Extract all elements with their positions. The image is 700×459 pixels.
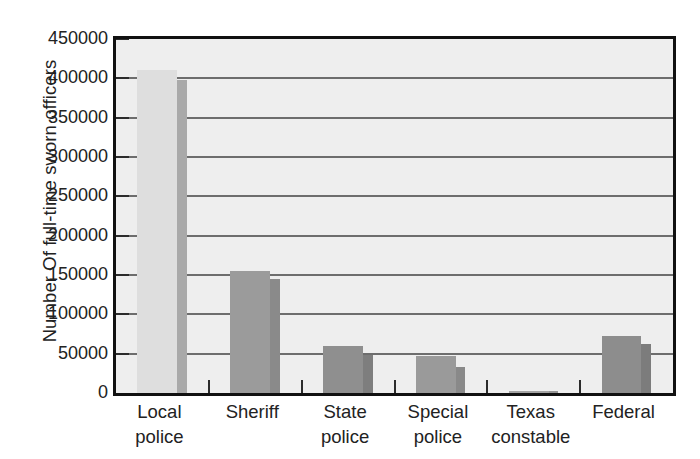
bar-front-face	[137, 70, 177, 393]
gridline	[116, 313, 673, 315]
y-axis-tick-label: 50000	[4, 344, 108, 362]
y-axis-tick-label: 100000	[4, 304, 108, 322]
bar-front-face	[416, 356, 456, 393]
gridline	[116, 117, 673, 119]
y-axis-tick-mark	[116, 313, 129, 315]
bar-side-face	[456, 367, 466, 393]
gridline	[116, 156, 673, 158]
bar[interactable]	[602, 336, 652, 393]
y-axis-tick-label: 150000	[4, 265, 108, 283]
gridline	[116, 195, 673, 197]
x-axis-tick-label: Texasconstable	[484, 400, 577, 449]
y-axis-tick-label: 250000	[4, 186, 108, 204]
bar[interactable]	[509, 391, 559, 393]
x-axis-tick-label-line: Sheriff	[206, 400, 299, 425]
x-axis-tick-label-line: Federal	[577, 400, 670, 425]
gridline	[116, 353, 673, 355]
x-axis-tick-label-line: constable	[484, 425, 577, 450]
y-axis-tick-mark	[116, 156, 129, 158]
y-axis-tick-label: 450000	[4, 29, 108, 47]
y-axis-tick-label: 350000	[4, 108, 108, 126]
bar-front-face	[230, 271, 270, 393]
x-axis-tick-mark	[394, 380, 396, 393]
y-axis-tick-mark	[116, 274, 129, 276]
x-axis-tick-label: Statepolice	[299, 400, 392, 449]
bar-side-face	[177, 80, 187, 393]
y-axis-tick-label: 300000	[4, 147, 108, 165]
bar-side-face	[363, 355, 373, 393]
y-axis-tick-mark	[116, 39, 129, 40]
gridline	[116, 235, 673, 237]
bar[interactable]	[230, 271, 280, 393]
x-axis-tick-label: Federal	[577, 400, 670, 425]
x-axis-tick-label-line: Local	[113, 400, 206, 425]
y-axis-tick-mark	[116, 353, 129, 355]
y-axis-tick-label: 200000	[4, 226, 108, 244]
x-axis-tick-mark	[301, 380, 303, 393]
bar-side-face	[270, 279, 280, 393]
y-axis-tick-label: 400000	[4, 68, 108, 86]
x-axis-tick-label-line: Special	[392, 400, 485, 425]
x-axis-tick-label-line: police	[392, 425, 485, 450]
plot-inner	[116, 39, 673, 393]
x-axis-tick-label: Sheriff	[206, 400, 299, 425]
gridline	[116, 274, 673, 276]
y-axis-tick-label: 0	[4, 383, 108, 401]
bar[interactable]	[137, 70, 187, 393]
x-axis-tick-mark	[486, 380, 488, 393]
bar[interactable]	[323, 346, 373, 393]
x-axis-tick-label-line: police	[113, 425, 206, 450]
x-axis-tick-label: Localpolice	[113, 400, 206, 449]
y-axis-tick-labels: 0500001000001500002000002500003000003500…	[0, 0, 108, 459]
x-axis-tick-label: Specialpolice	[392, 400, 485, 449]
bar-side-face	[549, 391, 559, 393]
x-axis-tick-mark	[579, 380, 581, 393]
bar-front-face	[602, 336, 642, 393]
plot-area	[113, 36, 676, 396]
bar-front-face	[323, 346, 363, 393]
gridline	[116, 77, 673, 79]
bar[interactable]	[416, 356, 466, 393]
y-axis-tick-mark	[116, 77, 129, 79]
bar-front-face	[509, 391, 549, 393]
x-axis-tick-label-line: police	[299, 425, 392, 450]
y-axis-tick-mark	[116, 117, 129, 119]
y-axis-tick-mark	[116, 195, 129, 197]
x-axis-tick-label-line: State	[299, 400, 392, 425]
x-axis-tick-mark	[208, 380, 210, 393]
bar-chart-figure: Number Of full-time sworn officers 05000…	[0, 0, 700, 459]
y-axis-tick-mark	[116, 235, 129, 237]
bar-side-face	[641, 344, 651, 393]
x-axis-tick-label-line: Texas	[484, 400, 577, 425]
x-axis-tick-labels: LocalpoliceSheriffStatepoliceSpecialpoli…	[113, 400, 676, 458]
